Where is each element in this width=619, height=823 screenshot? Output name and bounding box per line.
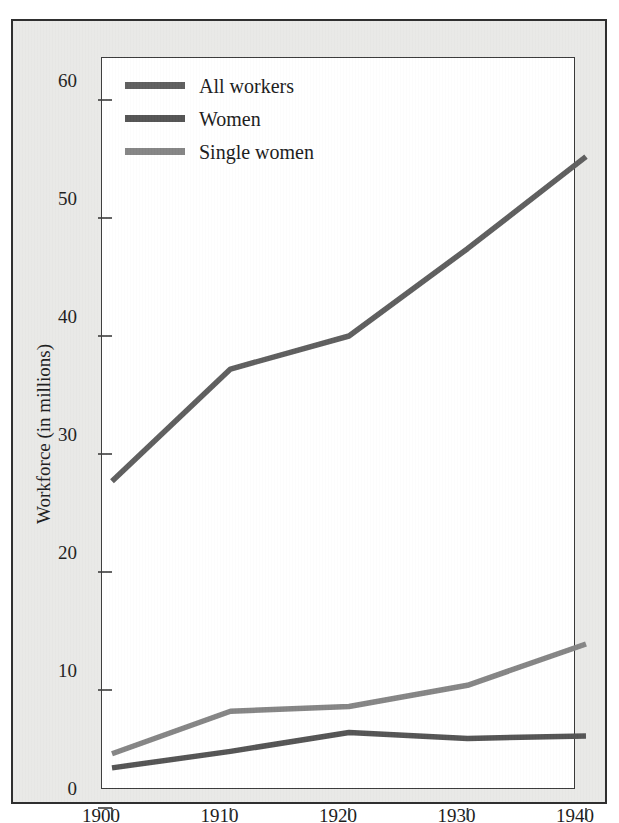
chart-lines-layer bbox=[13, 21, 619, 823]
data-series-line-0 bbox=[112, 157, 586, 482]
chart-panel: Workforce (in millions) 0102030405060 19… bbox=[11, 19, 607, 804]
data-series-line-1 bbox=[112, 732, 586, 767]
figure-container: Workforce (in millions) 0102030405060 19… bbox=[0, 0, 619, 823]
